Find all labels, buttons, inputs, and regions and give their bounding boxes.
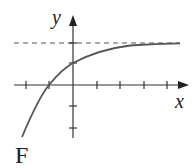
y-axis-label: y bbox=[52, 6, 61, 29]
y-axis-arrow-icon bbox=[69, 15, 77, 26]
panel-label: F bbox=[15, 142, 28, 168]
function-curve bbox=[22, 43, 180, 137]
graph bbox=[0, 0, 196, 168]
x-axis-arrow-icon bbox=[178, 81, 189, 89]
x-axis-label: x bbox=[175, 90, 184, 113]
